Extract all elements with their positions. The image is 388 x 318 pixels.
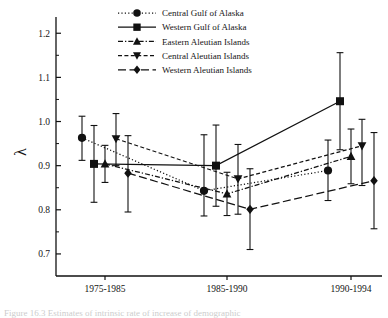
data-point-marker-circle xyxy=(200,187,208,195)
y-axis-tick-label: 1.1 xyxy=(38,73,50,83)
lambda-line-chart: Central Gulf of AlaskaWestern Gulf of Al… xyxy=(0,0,388,318)
data-point-marker-square xyxy=(133,24,140,31)
y-axis-tick-label: 1.0 xyxy=(38,117,50,127)
x-axis-tick-label: 1985-1990 xyxy=(206,284,247,294)
data-point-marker-square xyxy=(336,97,344,105)
legend-label: Central Gulf of Alaska xyxy=(162,8,244,18)
y-axis-tick-label: 0.9 xyxy=(38,161,50,171)
data-point-marker-square xyxy=(90,160,98,168)
legend-label: Central Aleutian Islands xyxy=(162,51,249,61)
data-point-marker-circle xyxy=(78,134,86,142)
x-axis-tick-label: 1990-1994 xyxy=(330,284,371,294)
figure-caption-partial: Figure 16.3 Estimates of intrinsic rate … xyxy=(4,308,240,318)
figure-container: Central Gulf of AlaskaWestern Gulf of Al… xyxy=(0,0,388,318)
y-axis-tick-label: 1.2 xyxy=(38,29,50,39)
legend-label: Eastern Aleutian Islands xyxy=(162,37,250,47)
x-axis-tick-label: 1975-1985 xyxy=(84,284,125,294)
y-axis-tick-label: 0.8 xyxy=(38,205,50,215)
legend-label: Western Gulf of Alaska xyxy=(162,22,247,32)
chart-background xyxy=(0,0,388,318)
y-axis-title: λ xyxy=(12,148,29,156)
data-point-marker-circle xyxy=(133,9,141,17)
legend-label: Western Aleutian Islands xyxy=(162,65,252,75)
data-point-marker-circle xyxy=(324,166,332,174)
data-point-marker-square xyxy=(212,162,220,170)
legend-item-1: Central Gulf of Alaska xyxy=(118,8,244,18)
y-axis-tick-label: 0.7 xyxy=(38,249,50,259)
